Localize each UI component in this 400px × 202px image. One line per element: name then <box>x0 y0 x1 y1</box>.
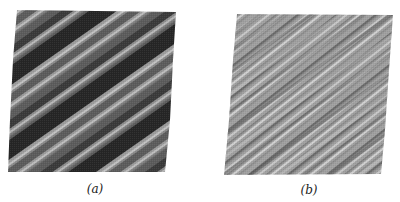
panel-a-image <box>0 0 200 180</box>
figure: (a) (b) <box>0 0 400 202</box>
panel-a-caption: (a) <box>75 182 115 196</box>
panel-b-caption: (b) <box>289 183 329 197</box>
panel-b-image <box>200 0 400 180</box>
figure-panels <box>0 0 400 180</box>
